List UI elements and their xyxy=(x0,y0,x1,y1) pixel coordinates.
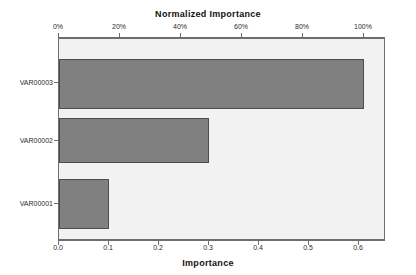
top-axis-title: Normalized Importance xyxy=(0,9,416,19)
y-tick-label-var00002: VAR00002 xyxy=(20,137,53,144)
bottom-tick-label: 0.4 xyxy=(253,244,263,251)
top-tick-label: 80% xyxy=(295,23,309,30)
y-tick-label-var00001: VAR00001 xyxy=(20,200,53,207)
plot-inner xyxy=(59,39,384,239)
bottom-tick-label: 0.0 xyxy=(53,244,63,251)
top-tick-label: 60% xyxy=(234,23,248,30)
plot-area xyxy=(58,38,385,240)
bottom-tick-label: 0.5 xyxy=(303,244,313,251)
top-tick-label: 0% xyxy=(53,23,63,30)
top-tick-label: 100% xyxy=(354,23,372,30)
bottom-tick-label: 0.2 xyxy=(153,244,163,251)
bottom-tick-label: 0.3 xyxy=(203,244,213,251)
top-tick-mark xyxy=(180,33,181,37)
top-tick-mark xyxy=(302,33,303,37)
top-tick-mark xyxy=(119,33,120,37)
top-tick-mark xyxy=(58,33,59,37)
bottom-axis-title: Importance xyxy=(0,258,416,268)
bar-var00002 xyxy=(59,118,209,163)
bar-var00001 xyxy=(59,179,109,229)
bottom-tick-label: 0.1 xyxy=(103,244,113,251)
bottom-tick-label: 0.6 xyxy=(353,244,363,251)
bar-var00003 xyxy=(59,59,364,109)
top-tick-mark xyxy=(363,33,364,37)
top-tick-label: 20% xyxy=(112,23,126,30)
top-tick-label: 40% xyxy=(173,23,187,30)
top-tick-mark xyxy=(241,33,242,37)
y-tick-label-var00003: VAR00003 xyxy=(20,79,53,86)
importance-bar-chart: Normalized Importance 0%20%40%60%80%100%… xyxy=(0,0,416,275)
